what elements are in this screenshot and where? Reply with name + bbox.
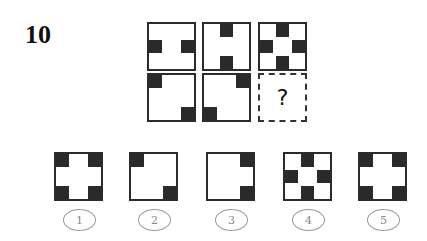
filled-square-icon (131, 154, 144, 167)
filled-square-icon (220, 24, 233, 37)
filled-square-icon (149, 75, 162, 88)
sequence-figure-1-3 (258, 22, 307, 71)
filled-square-icon (181, 107, 194, 120)
option-2-figure[interactable] (129, 152, 178, 201)
filled-square-icon (317, 170, 330, 183)
question-mark: ? (260, 75, 305, 120)
filled-square-icon (360, 154, 373, 167)
question-number: 10 (25, 20, 51, 50)
filled-square-icon (392, 154, 405, 167)
sequence-figure-1-1 (147, 22, 196, 71)
sequence-figure-2-2 (202, 73, 251, 122)
option-3-figure[interactable] (206, 152, 255, 201)
filled-square-icon (181, 40, 194, 53)
filled-square-icon (276, 56, 289, 69)
filled-square-icon (285, 170, 298, 183)
option-4-label[interactable]: 4 (292, 209, 325, 231)
option-4-figure[interactable] (283, 152, 332, 201)
filled-square-icon (292, 40, 305, 53)
option-3-label[interactable]: 3 (215, 209, 248, 231)
filled-square-icon (392, 186, 405, 199)
sequence-figure-1-2 (202, 22, 251, 71)
option-1-label[interactable]: 1 (63, 209, 96, 231)
filled-square-icon (276, 24, 289, 37)
filled-square-icon (260, 40, 273, 53)
option-5-label[interactable]: 5 (367, 209, 400, 231)
filled-square-icon (240, 154, 253, 167)
filled-square-icon (56, 154, 69, 167)
filled-square-icon (204, 107, 217, 120)
filled-square-icon (88, 186, 101, 199)
option-1-figure[interactable] (54, 152, 103, 201)
filled-square-icon (88, 154, 101, 167)
filled-square-icon (240, 186, 253, 199)
option-2-label[interactable]: 2 (138, 209, 171, 231)
filled-square-icon (360, 186, 373, 199)
filled-square-icon (149, 40, 162, 53)
filled-square-icon (301, 186, 314, 199)
filled-square-icon (163, 186, 176, 199)
filled-square-icon (236, 75, 249, 88)
option-5-figure[interactable] (358, 152, 407, 201)
filled-square-icon (220, 56, 233, 69)
filled-square-icon (56, 186, 69, 199)
filled-square-icon (301, 154, 314, 167)
missing-figure-slot: ? (258, 73, 307, 122)
sequence-figure-2-1 (147, 73, 196, 122)
